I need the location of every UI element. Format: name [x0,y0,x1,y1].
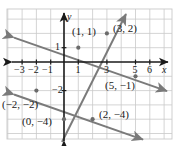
point-label-5-neg1: (5, −1) [105,79,135,91]
y-tick-label-1: 1 [55,41,60,52]
point-1-1 [76,46,80,50]
x-tick-label-1: 1 [76,64,81,75]
x-tick-label-6: 6 [147,64,152,75]
point-label-2-neg4: (2, −4) [99,108,129,120]
point-label-0-neg4: (0, −4) [22,115,52,127]
point-label-neg2-neg2: (−2, −2) [2,98,38,110]
x-tick-label--1: −1 [42,64,53,75]
point-label-3-2: (3, 2) [113,22,137,34]
y-axis-name: y [67,11,71,22]
x-axis-name: x [162,64,166,75]
y-tick-label--2: −2 [52,84,63,95]
point-label-1-1: (1, 1) [72,25,96,37]
point-neg2-neg2 [34,89,38,93]
point-3-2 [105,31,109,35]
graph-figure: −3 −2 −1 1 3 5 6 1 −2 y x (1, 1) (3, 2) … [0,0,180,146]
x-tick-label-5: 5 [133,64,138,75]
point-0-neg4 [62,117,66,121]
x-tick-label-3: 3 [104,64,109,75]
x-tick-label--2: −2 [28,64,39,75]
x-tick-label--3: −3 [14,64,25,75]
point-2-neg4 [91,117,95,121]
